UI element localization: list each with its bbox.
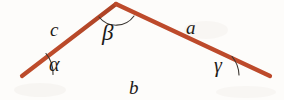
triangle-diagram-svg	[0, 0, 284, 100]
side-a-line	[116, 4, 270, 76]
side-label-b: b	[129, 78, 139, 97]
triangle-figure: c a b α β γ	[0, 0, 284, 100]
angle-label-beta: β	[102, 21, 113, 44]
side-label-c: c	[50, 20, 58, 39]
angle-label-gamma: γ	[214, 55, 222, 75]
angle-label-alpha: α	[49, 54, 60, 74]
side-label-a: a	[186, 18, 196, 37]
